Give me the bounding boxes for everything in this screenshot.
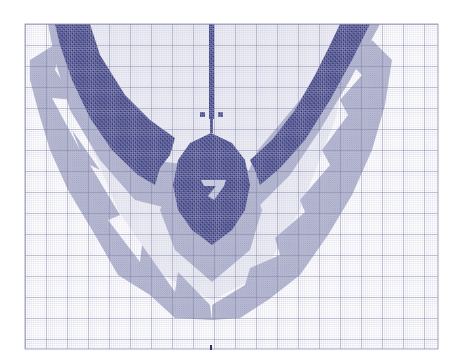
chart-grid-area (25, 24, 438, 349)
center-marker (210, 345, 212, 350)
cross-stitch-chart (0, 0, 456, 358)
